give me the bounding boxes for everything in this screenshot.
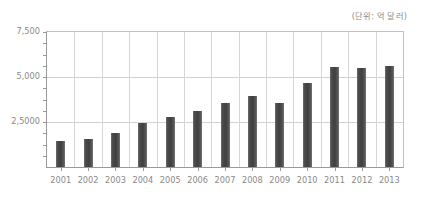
vertical-gridline <box>129 32 130 167</box>
bar <box>221 103 230 167</box>
x-axis-tick <box>143 168 144 171</box>
y-axis-tick <box>43 43 47 44</box>
y-axis-tick <box>43 88 47 89</box>
x-axis-label: 2001 <box>50 175 71 185</box>
x-axis-tick <box>307 168 308 171</box>
bar <box>357 68 366 167</box>
y-axis-label: 7,500 <box>0 26 40 36</box>
bar <box>84 139 93 167</box>
bar-chart-figure: (단위: 억 달러) 2,50005,0007,500 200120022003… <box>0 0 421 199</box>
bar <box>303 83 312 167</box>
x-axis-tick <box>280 168 281 171</box>
horizontal-gridline <box>47 77 403 78</box>
vertical-gridline <box>348 32 349 167</box>
y-axis-tick <box>43 133 47 134</box>
x-axis-tick <box>170 168 171 171</box>
x-axis-label: 2005 <box>160 175 181 185</box>
x-axis-label: 2003 <box>105 175 126 185</box>
x-axis-tick <box>225 168 226 171</box>
x-axis-label: 2009 <box>269 175 290 185</box>
y-axis-label: 5,000 <box>0 71 40 81</box>
bar <box>166 117 175 167</box>
x-axis-label: 2007 <box>215 175 236 185</box>
vertical-gridline <box>266 32 267 167</box>
y-axis-tick <box>43 32 47 33</box>
y-axis-tick <box>43 77 47 78</box>
x-axis-tick <box>252 168 253 171</box>
x-axis-tick <box>335 168 336 171</box>
y-axis-tick <box>43 55 47 56</box>
bar <box>385 66 394 167</box>
plot-area <box>46 31 404 168</box>
unit-note: (단위: 억 달러) <box>352 9 407 21</box>
y-axis-tick <box>43 156 47 157</box>
bar <box>138 123 147 167</box>
x-axis-tick <box>88 168 89 171</box>
x-axis-label: 2002 <box>78 175 99 185</box>
x-axis-label: 2010 <box>297 175 318 185</box>
vertical-gridline <box>184 32 185 167</box>
y-axis-tick <box>43 145 47 146</box>
vertical-gridline <box>157 32 158 167</box>
x-axis-label: 2013 <box>379 175 400 185</box>
bar <box>111 133 120 167</box>
vertical-gridline <box>321 32 322 167</box>
y-axis-label: 2,5000 <box>0 116 40 126</box>
plot-inner <box>47 32 403 167</box>
x-axis-label: 2008 <box>242 175 263 185</box>
vertical-gridline <box>239 32 240 167</box>
vertical-gridline <box>376 32 377 167</box>
x-axis-label: 2011 <box>324 175 345 185</box>
y-axis-labels: 2,50005,0007,500 <box>0 31 40 168</box>
vertical-gridline <box>74 32 75 167</box>
y-axis-tick <box>43 111 47 112</box>
bar <box>330 67 339 167</box>
x-axis-tick <box>362 168 363 171</box>
x-axis-label: 2012 <box>352 175 373 185</box>
bar <box>56 141 65 167</box>
y-axis-tick <box>43 66 47 67</box>
vertical-gridline <box>102 32 103 167</box>
bar <box>275 103 284 167</box>
vertical-gridline <box>211 32 212 167</box>
vertical-gridline <box>293 32 294 167</box>
y-axis-tick <box>43 100 47 101</box>
x-axis-label: 2004 <box>132 175 153 185</box>
bar <box>193 111 202 167</box>
x-axis-tick <box>61 168 62 171</box>
y-axis-tick <box>43 122 47 123</box>
x-axis-tick <box>389 168 390 171</box>
x-axis-label: 2006 <box>187 175 208 185</box>
x-axis-tick <box>198 168 199 171</box>
bar <box>248 96 257 167</box>
x-axis-tick <box>115 168 116 171</box>
